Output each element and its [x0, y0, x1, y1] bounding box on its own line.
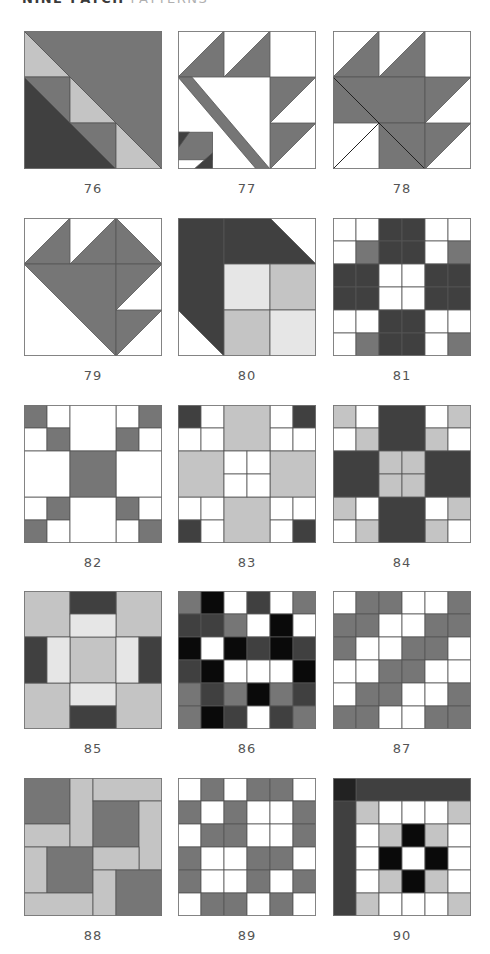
- block-number-label: 86: [178, 741, 316, 756]
- quilt-block-graphic: [178, 591, 316, 729]
- block-number-label: 88: [24, 928, 162, 943]
- block-number-label: 76: [24, 181, 162, 196]
- block-number-label: 87: [333, 741, 471, 756]
- quilt-block-graphic: [178, 31, 316, 169]
- quilt-block-graphic: [24, 591, 162, 729]
- quilt-block-graphic: [178, 218, 316, 356]
- quilt-block-84: [333, 405, 471, 543]
- page-header: NINE-PATCH PATTERNS: [22, 0, 208, 5]
- block-number-label: 84: [333, 555, 471, 570]
- quilt-block-graphic: [333, 218, 471, 356]
- block-number-label: 81: [333, 368, 471, 383]
- quilt-block-graphic: [24, 405, 162, 543]
- quilt-block-graphic: [333, 778, 471, 916]
- quilt-block-88: [24, 778, 162, 916]
- quilt-block-87: [333, 591, 471, 729]
- block-number-label: 78: [333, 181, 471, 196]
- block-number-label: 79: [24, 368, 162, 383]
- block-number-label: 89: [178, 928, 316, 943]
- header-title-dark: NINE-PATCH: [22, 0, 125, 6]
- quilt-block-79: [24, 218, 162, 356]
- block-number-label: 85: [24, 741, 162, 756]
- block-number-label: 90: [333, 928, 471, 943]
- quilt-block-78: [333, 31, 471, 169]
- quilt-block-85: [24, 591, 162, 729]
- quilt-block-82: [24, 405, 162, 543]
- quilt-block-graphic: [24, 778, 162, 916]
- quilt-block-graphic: [178, 778, 316, 916]
- quilt-block-89: [178, 778, 316, 916]
- quilt-block-graphic: [333, 405, 471, 543]
- block-number-label: 80: [178, 368, 316, 383]
- quilt-block-graphic: [333, 31, 471, 169]
- quilt-block-83: [178, 405, 316, 543]
- quilt-block-graphic: [333, 591, 471, 729]
- quilt-block-graphic: [24, 31, 162, 169]
- quilt-block-90: [333, 778, 471, 916]
- quilt-block-77: [178, 31, 316, 169]
- quilt-block-graphic: [24, 218, 162, 356]
- quilt-block-81: [333, 218, 471, 356]
- block-number-label: 82: [24, 555, 162, 570]
- quilt-block-86: [178, 591, 316, 729]
- quilt-block-76: [24, 31, 162, 169]
- quilt-block-graphic: [178, 405, 316, 543]
- block-number-label: 83: [178, 555, 316, 570]
- block-number-label: 77: [178, 181, 316, 196]
- quilt-block-80: [178, 218, 316, 356]
- header-title-light: PATTERNS: [131, 0, 209, 6]
